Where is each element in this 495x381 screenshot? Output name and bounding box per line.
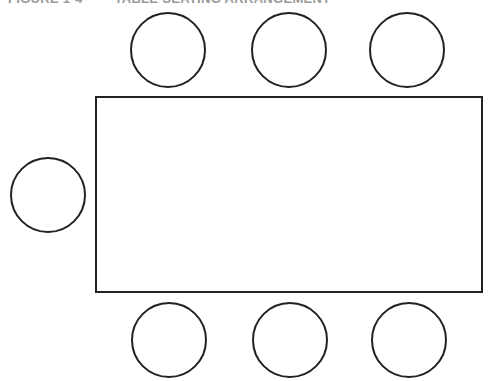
seat-top-3 [370,13,444,87]
seating-diagram [0,0,495,381]
seat-top-2 [252,13,326,87]
seat-bottom-2 [253,303,327,377]
table [96,97,482,292]
seat-bottom-1 [132,303,206,377]
seat-top-1 [131,13,205,87]
seat-left-1 [11,158,85,232]
seat-bottom-3 [372,303,446,377]
